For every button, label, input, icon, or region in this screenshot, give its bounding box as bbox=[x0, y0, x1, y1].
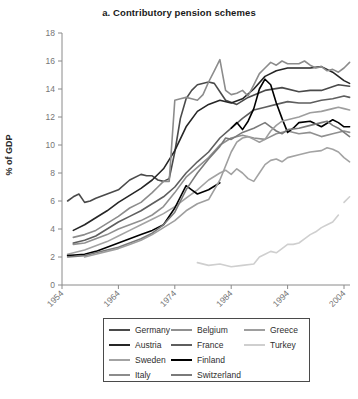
y-tick-label: 18 bbox=[46, 28, 56, 38]
legend-swatch-sweden bbox=[109, 359, 130, 361]
y-tick-label: 8 bbox=[50, 168, 55, 178]
legend-swatch-austria bbox=[109, 344, 130, 346]
legend-label-finland: Finland bbox=[197, 353, 225, 367]
legend-swatch-france bbox=[171, 344, 192, 346]
legend-label-germany: Germany bbox=[135, 323, 170, 337]
y-tick-label: 0 bbox=[50, 280, 55, 290]
legend-label-belgium: Belgium bbox=[197, 323, 228, 337]
legend-label-italy: Italy bbox=[135, 368, 151, 382]
plot-area: 024681012141618195419641974198419942004 bbox=[0, 0, 358, 318]
legend-swatch-italy bbox=[109, 374, 130, 376]
legend-swatch-finland bbox=[171, 359, 192, 361]
legend-label-greece: Greece bbox=[270, 323, 298, 337]
legend: GermanyAustriaSwedenItalyBelgiumFranceFi… bbox=[103, 318, 310, 382]
pension-chart-figure: a. Contributory pension schemes % of GDP… bbox=[0, 0, 358, 399]
y-tick-label: 4 bbox=[50, 224, 55, 234]
series-line-sweden bbox=[68, 148, 350, 254]
y-tick-label: 6 bbox=[50, 196, 55, 206]
x-tick-label: 1984 bbox=[214, 288, 235, 309]
x-tick-label: 2004 bbox=[327, 288, 348, 309]
legend-swatch-turkey bbox=[244, 344, 265, 346]
y-tick-label: 12 bbox=[46, 112, 56, 122]
legend-label-turkey: Turkey bbox=[270, 338, 296, 352]
y-tick-label: 14 bbox=[46, 84, 56, 94]
series-line-turkey bbox=[197, 215, 338, 267]
x-tick-label: 1964 bbox=[101, 288, 122, 309]
legend-swatch-belgium bbox=[171, 329, 192, 331]
legend-swatch-switzerland bbox=[171, 374, 192, 376]
x-tick-label: 1994 bbox=[271, 288, 292, 309]
legend-label-sweden: Sweden bbox=[135, 353, 166, 367]
legend-swatch-germany bbox=[109, 329, 130, 331]
series-line-germany bbox=[68, 82, 350, 202]
legend-label-france: France bbox=[197, 338, 223, 352]
y-tick-label: 2 bbox=[50, 252, 55, 262]
y-tick-label: 16 bbox=[46, 56, 56, 66]
y-tick-label: 10 bbox=[46, 140, 56, 150]
legend-label-switzerland: Switzerland bbox=[197, 368, 241, 382]
series-line-france bbox=[73, 96, 349, 243]
legend-label-austria: Austria bbox=[135, 338, 161, 352]
series-line-turkey bbox=[344, 197, 350, 203]
x-tick-label: 1954 bbox=[45, 288, 66, 309]
legend-swatch-greece bbox=[244, 329, 265, 331]
x-tick-label: 1974 bbox=[158, 288, 179, 309]
